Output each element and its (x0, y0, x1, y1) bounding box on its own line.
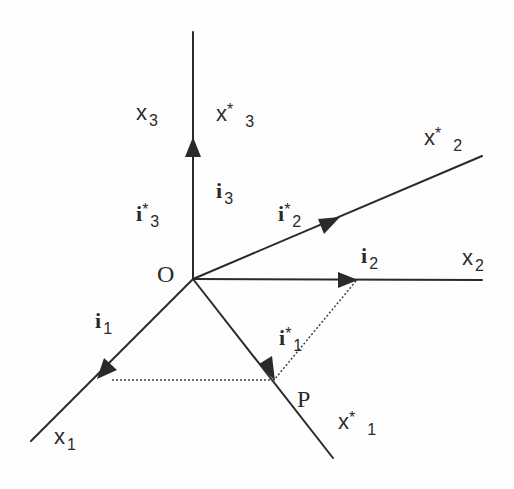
label-point-p: P (297, 387, 310, 411)
label-x1-star: x*1 (338, 410, 376, 438)
axis-x2 (193, 279, 482, 280)
arrowhead-i2-star-icon (318, 217, 340, 234)
label-i1-star: i*1 (279, 326, 302, 354)
diagram-canvas: x3 x*3 x*2 x2 x1 x*1 i3 i*3 i*2 i2 i1 i*… (0, 0, 514, 489)
label-i3-star: i*3 (136, 202, 159, 230)
arrowhead-i3-icon (185, 137, 201, 157)
label-i1: i1 (95, 310, 112, 337)
arrowhead-i2-icon (338, 272, 358, 288)
arrowhead-i1-star-icon (259, 356, 275, 381)
axes-drawing (0, 0, 514, 489)
label-i2: i2 (361, 245, 378, 272)
label-origin: O (157, 262, 174, 286)
label-x3-star: x*3 (216, 102, 254, 130)
axis-x1-star (193, 279, 333, 458)
axis-x1 (31, 279, 193, 441)
label-x2: x2 (462, 247, 484, 274)
label-x2-star: x*2 (424, 126, 462, 154)
label-i2-star: i*2 (278, 202, 301, 230)
label-x1: x1 (54, 426, 76, 453)
label-i3: i3 (216, 180, 233, 207)
label-x3: x3 (136, 102, 158, 129)
arrowhead-i1-icon (97, 358, 117, 379)
